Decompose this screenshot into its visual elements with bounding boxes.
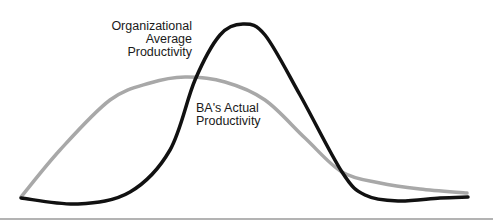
ba-actual-productivity-label: BA's Actual Productivity [196,102,261,128]
organizational-average-productivity-label: Organizational Average Productivity [111,20,192,59]
org-label-line-3: Productivity [111,46,192,59]
ba-actual-productivity-curve [21,77,467,197]
ba-label-line-2: Productivity [196,115,261,128]
